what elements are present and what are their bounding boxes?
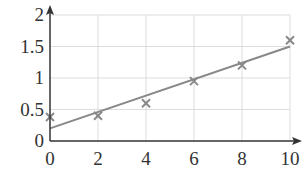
y-tick-label: 2: [35, 4, 45, 25]
data-points: [46, 36, 294, 121]
scatter-chart: 0246810 00.511.52: [0, 0, 308, 175]
best-fit-line: [50, 47, 290, 129]
x-tick-label: 4: [141, 148, 151, 169]
x-tick-labels: 0246810: [45, 148, 299, 169]
fit-line: [50, 47, 290, 129]
y-tick-label: 0: [35, 130, 45, 151]
x-tick-label: 6: [189, 148, 199, 169]
x-tick-label: 10: [281, 148, 300, 169]
y-tick-labels: 00.511.52: [20, 4, 44, 151]
grid-lines: [50, 15, 290, 141]
y-tick-label: 1: [35, 67, 45, 88]
x-tick-label: 2: [93, 148, 103, 169]
axes: [46, 5, 302, 145]
x-tick-label: 0: [45, 148, 55, 169]
x-tick-label: 8: [237, 148, 247, 169]
y-tick-label: 0.5: [20, 99, 44, 120]
y-tick-label: 1.5: [20, 36, 44, 57]
